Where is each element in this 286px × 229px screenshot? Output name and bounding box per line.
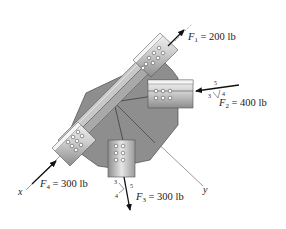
y-axis-label: y [202, 184, 208, 195]
label-f4: F4 = 300 lb [39, 178, 88, 191]
slope-triangle-f3: 3 5 4 [114, 179, 133, 199]
member-f2 [148, 80, 193, 108]
label-f3: F3 = 300 lb [135, 191, 184, 204]
force-diagram: 5 3 4 3 5 4 F1 = 200 lb F2 = 400 lb F3 =… [0, 0, 286, 229]
member-f3 [108, 140, 135, 177]
label-f1: F1 = 200 lb [187, 31, 236, 44]
arrow-f1 [168, 30, 184, 46]
slope-f3-a: 3 [114, 179, 117, 185]
arrow-f2 [196, 85, 239, 91]
slope-f3-b: 4 [115, 193, 118, 199]
arrow-f3 [124, 177, 130, 210]
slope-f3-hyp: 5 [130, 183, 133, 189]
label-f2: F2 = 400 lb [218, 97, 267, 110]
x-axis-label: x [17, 186, 23, 197]
slope-f2-a: 3 [208, 93, 211, 99]
slope-f2-hyp: 5 [214, 80, 217, 86]
